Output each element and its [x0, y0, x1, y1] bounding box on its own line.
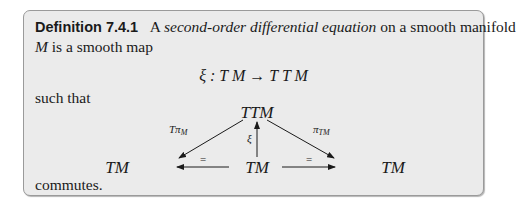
commutes-text: commutes. [35, 176, 103, 194]
label-bottom-left: = [200, 153, 206, 165]
label-right-diagonal: πTM [313, 123, 331, 137]
label-bottom-right: = [306, 153, 312, 165]
node-top: TTM [240, 103, 274, 122]
label-left-diagonal: TπM [169, 123, 189, 137]
node-left: TM [105, 158, 129, 177]
definition-box: Definition 7.4.1 A second-order differen… [23, 10, 484, 196]
commutative-diagram: TTM TM TM TM TπM πTM ξ = = [24, 11, 485, 197]
node-right: TM [381, 158, 405, 177]
arrow-left-diagonal [179, 120, 243, 158]
label-xi: ξ [247, 132, 252, 145]
node-center: TM [245, 158, 269, 177]
arrow-right-diagonal [267, 120, 334, 158]
